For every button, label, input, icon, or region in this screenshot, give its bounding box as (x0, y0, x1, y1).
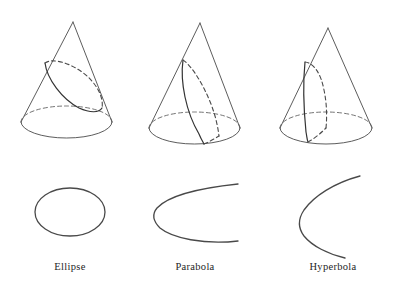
hyperbola-section-back-branch (305, 62, 327, 128)
cone-right-edge-hyperbola (328, 28, 372, 128)
curve-parabola-2d (154, 184, 238, 242)
parabola-outline-shape (154, 184, 238, 242)
hyperbola-outline-shape (300, 176, 361, 258)
caption-hyperbola: Hyperbola (278, 261, 388, 272)
ellipse-outline-shape (35, 188, 105, 236)
parabola-section-back-branch (183, 60, 219, 136)
cone-parabola (149, 23, 240, 144)
caption-ellipse: Ellipse (20, 261, 120, 272)
cone-right-edge-parabola (200, 23, 240, 128)
curve-hyperbola-2d (300, 176, 361, 258)
conic-sections-figure: Ellipse Parabola Hyperbola (0, 0, 394, 297)
hyperbola-section-base-chord (308, 128, 326, 142)
cone-base-front-parabola (149, 128, 240, 144)
cone-ellipse (21, 22, 112, 138)
cone-hyperbola (280, 28, 372, 144)
ellipse-section-front-arc (45, 63, 102, 112)
conic-sections-illustration (0, 0, 394, 297)
cone-base-front-ellipse (21, 122, 112, 138)
cone-base-front-hyperbola (280, 128, 372, 144)
curve-ellipse-2d (35, 188, 105, 236)
caption-parabola: Parabola (145, 261, 245, 272)
parabola-section-front-branch (182, 60, 204, 144)
cone-base-back-ellipse (21, 106, 112, 122)
